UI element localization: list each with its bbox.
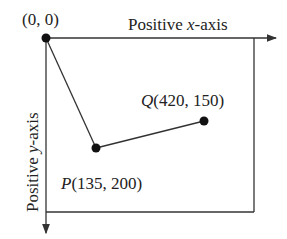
coordinate-diagram: (0, 0) Positive x-axis Positive y-axis P…	[0, 0, 287, 239]
point-p-label: P(135, 200)	[60, 174, 142, 193]
origin-label: (0, 0)	[22, 10, 59, 29]
origin-point	[42, 34, 51, 43]
point-q-label: Q(420, 150)	[141, 91, 224, 110]
y-axis-label: Positive y-axis	[23, 112, 42, 212]
segment-p-q	[96, 121, 204, 148]
point-q	[200, 117, 209, 126]
point-p	[92, 144, 101, 153]
x-axis-label: Positive x-axis	[128, 15, 228, 34]
segment-origin-p	[46, 38, 96, 148]
